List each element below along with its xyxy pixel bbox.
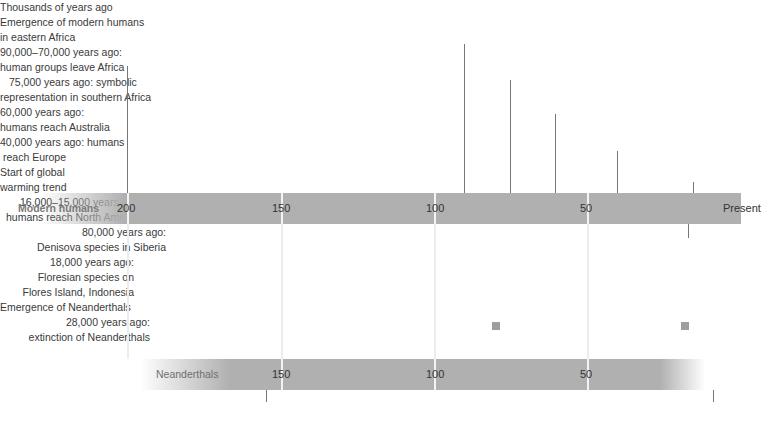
connector-australia [555,114,556,193]
tick-label-100: 100 [426,202,444,214]
denisova-marker [492,322,500,330]
event-reach-europe: 40,000 years ago: humans reach Europe [0,135,772,165]
connector-north-america [688,224,689,238]
floresian-marker [681,322,689,330]
event-emergence-neanderthals: Emergence of Neanderthals [0,300,772,315]
tick-label-present: Present [723,202,761,214]
neanderthals-label: Neanderthals [156,368,218,380]
modern-humans-label: Modern humans [18,202,99,214]
tick-label-n100: 100 [426,368,444,380]
event-symbolic-representation: 75,000 years ago: symbolic representatio… [0,75,772,105]
event-reach-australia: 60,000 years ago: humans reach Australia [0,105,772,135]
connector-symbolic [510,80,511,193]
connector-warming [693,182,694,193]
neanderthals-timeline-bar [0,359,705,390]
connector-europe [617,151,618,193]
event-emergence-modern-humans: Emergence of modern humans in eastern Af… [0,15,772,45]
connector-emergence-neanderthals [266,390,267,402]
gridline-50 [587,224,589,359]
connector-emergence-modern [127,66,128,193]
gridline-200 [127,224,129,359]
event-denisova: 80,000 years ago: Denisova species in Si… [0,225,166,255]
connector-extinction-neanderthals [713,390,714,402]
tick-label-n150: 150 [272,368,290,380]
event-floresian: 18,000 years ago: Floresian species on F… [0,255,134,300]
event-global-warming: Start of global warming trend [0,165,772,195]
tick-label-150: 150 [272,202,290,214]
tick-label-n50: 50 [580,368,592,380]
event-leave-africa: 90,000–70,000 years ago: human groups le… [0,45,772,75]
tick-label-200: 200 [117,202,135,214]
gridline-150 [281,224,283,359]
connector-leave-africa [464,44,465,193]
tick-label-50: 50 [580,202,592,214]
gridline-100 [434,224,436,359]
modern-humans-timeline-bar [0,193,741,224]
axis-caption: Thousands of years ago [0,0,772,15]
